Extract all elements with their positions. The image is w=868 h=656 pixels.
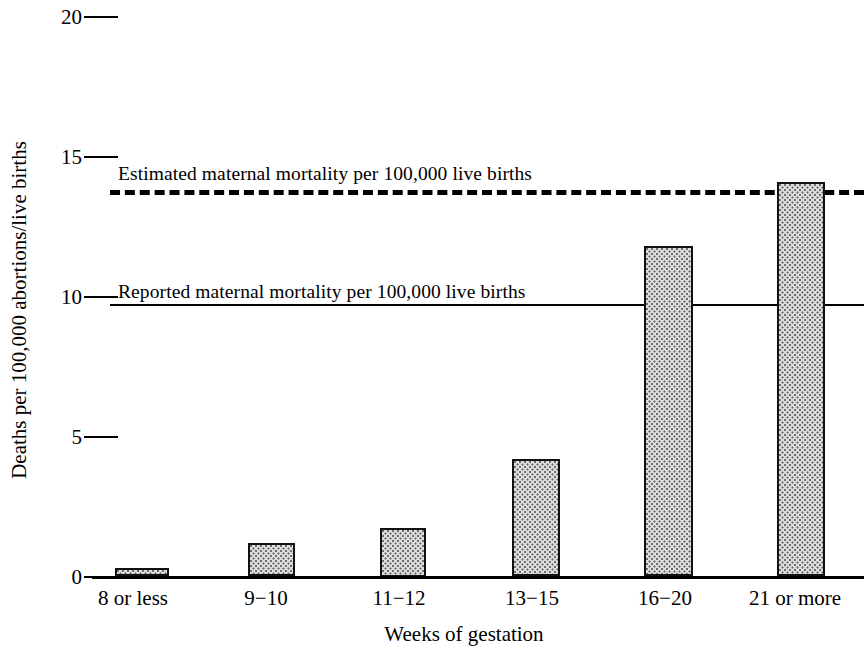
reported-line-caption: Reported maternal mortality per 100,000 … [118,282,525,302]
bar-chart-figure: Deaths per 100,000 abortions/live births… [0,0,868,656]
x-axis-line [92,576,864,579]
reported-mortality-line [110,304,864,306]
estimated-line-caption: Estimated maternal mortality per 100,000… [118,164,532,184]
bar-13-15 [512,459,560,577]
x-tick-label-13-15: 13−15 [505,588,559,609]
bar-9-10 [248,543,295,577]
x-tick-label-21-or-more: 21 or more [749,588,841,609]
bar-11-12 [380,528,426,577]
bar-16-20 [644,246,693,576]
x-tick-label-9-10: 9−10 [244,588,287,609]
plot-area: Estimated maternal mortality per 100,000… [0,0,868,656]
x-tick-label-11-12: 11−12 [372,588,425,609]
bar-21-or-more [777,182,825,577]
x-axis-title-text: Weeks of gestation [384,624,543,645]
estimated-mortality-line [110,190,864,195]
x-tick-label-8-or-less: 8 or less [98,588,168,609]
x-tick-label-16-20: 16−20 [638,588,692,609]
x-axis-title: Weeks of gestation [0,624,868,645]
